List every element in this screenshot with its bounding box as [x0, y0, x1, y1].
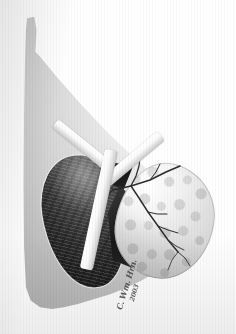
illustration-canvas: C. Wm. Hrn. 2003: [0, 0, 236, 334]
artist-signature: C. Wm. Hrn. 2003: [104, 262, 144, 310]
